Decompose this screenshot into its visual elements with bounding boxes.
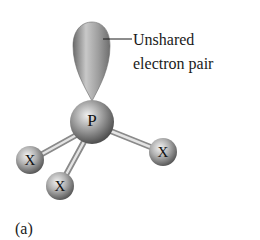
ligand-symbol: X	[25, 152, 36, 168]
central-atom-symbol: P	[87, 111, 96, 130]
molecule-diagram: P X X X Unshared electron pair (a)	[0, 0, 260, 240]
figure-caption: (a)	[15, 220, 33, 238]
central-atom: P	[70, 100, 114, 144]
ligand-right: X	[149, 138, 177, 166]
ligand-symbol: X	[55, 178, 66, 194]
lone-pair-label-line1: Unshared	[133, 31, 194, 48]
lone-pair-label-line2: electron pair	[133, 55, 214, 73]
ligand-symbol: X	[158, 144, 169, 160]
ligand-bottom: X	[46, 172, 74, 200]
lone-pair-lobe	[73, 22, 110, 101]
ligand-left: X	[16, 146, 44, 174]
